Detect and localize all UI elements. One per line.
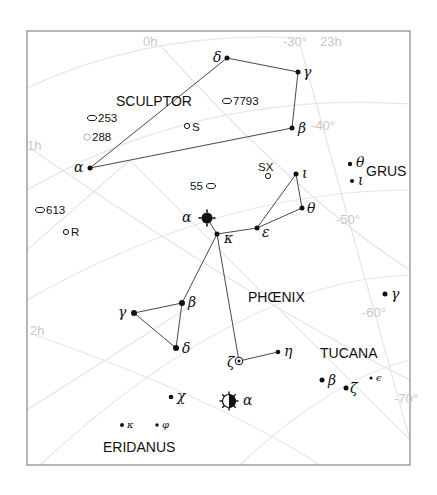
star-label: α: [243, 392, 253, 408]
star-eri-kappa: κ: [120, 419, 134, 430]
star-label: ζ: [227, 354, 236, 370]
star-label: ϵ: [376, 372, 382, 383]
constellation-line: [217, 234, 239, 361]
star-scl-alpha: α: [74, 159, 93, 175]
star-label: γ: [118, 304, 127, 320]
dec-line-70: [240, 360, 410, 465]
bright-star-icon: [199, 210, 216, 227]
star-phe-chi: χ: [169, 388, 187, 404]
star-dot-icon: [179, 300, 185, 306]
variable-star-icon: [220, 392, 239, 411]
star-dot-icon: [344, 386, 349, 391]
dec-line-40: [27, 102, 410, 190]
constellation-line: [134, 313, 176, 348]
star-phe-gamma: γ: [118, 304, 137, 320]
coord-label-dec-50: -50°: [336, 212, 360, 227]
star-label: β: [327, 372, 336, 388]
star-phe-theta: θ: [300, 200, 317, 216]
star-dot-icon: [225, 56, 230, 61]
galaxy-icon: [223, 98, 232, 103]
star-dot-icon: [155, 423, 158, 426]
star-label: α: [182, 209, 192, 225]
star-phe-epsilon: ε: [255, 224, 270, 240]
constellation-names: SCULPTORGRUSPHŒNIXTUCANAERIDANUS: [103, 93, 406, 455]
star-scl-gamma: γ: [296, 64, 313, 80]
star-label: γ: [391, 286, 400, 302]
variable-star-icon: [265, 173, 270, 178]
star-label: θ: [356, 154, 365, 170]
constellation-name-sculptor: SCULPTOR: [116, 93, 192, 109]
star-dot-icon: [255, 226, 260, 231]
star-eri-phi: φ: [155, 419, 169, 430]
galaxy-icon: [88, 115, 97, 120]
star-scl-delta: δ: [213, 49, 230, 65]
star-label: κ: [223, 230, 233, 246]
galaxy-icon: [36, 207, 45, 212]
coord-label-dec-30: -30°: [283, 34, 307, 49]
star-gru-theta: θ: [348, 154, 365, 170]
star-dot-icon: [276, 350, 281, 355]
star-label: χ: [176, 388, 187, 404]
dso-ngc-253: 253: [88, 112, 118, 124]
star-label: δ: [213, 49, 221, 65]
star-dot-icon: [88, 166, 93, 171]
constellation-name-phoenix: PHŒNIX: [248, 289, 305, 305]
star-scl-beta: β: [290, 120, 307, 136]
dso-label: 7793: [233, 95, 259, 107]
dso-label: SX: [258, 161, 274, 173]
star-label: ι: [358, 172, 364, 188]
star-dot-icon: [169, 395, 174, 400]
star-tuc-beta: β: [320, 372, 337, 388]
coord-label-ra-2h: 2h: [30, 323, 44, 338]
star-label: β: [187, 294, 196, 310]
coord-label-ra-0h: 0h: [143, 34, 157, 49]
star-label: δ: [182, 340, 190, 356]
star-label: η: [284, 343, 293, 359]
constellation-line: [134, 303, 182, 313]
star-gru-iota: ι: [350, 172, 364, 188]
dso-label: S: [192, 121, 200, 133]
star-label: α: [74, 159, 84, 175]
star-dot-icon: [131, 310, 137, 316]
coord-label-dec-40: -40°: [311, 118, 335, 133]
star-dot-icon: [320, 378, 325, 383]
dec-line-60: [40, 275, 410, 465]
variable-star-icon: [63, 229, 68, 234]
coord-label-dec-70: -70°: [394, 391, 418, 406]
constellation-name-eridanus: ERIDANUS: [103, 439, 175, 455]
star-label: θ: [307, 200, 316, 216]
dso-ngc-55: 55: [190, 180, 216, 192]
star-label: γ: [303, 64, 312, 80]
dso-scl-s: S: [184, 121, 200, 133]
constellation-line: [239, 352, 278, 361]
star-dot-icon: [350, 179, 354, 183]
dso-ngc-613: 613: [36, 204, 66, 216]
dso-ngc-288: 288: [83, 131, 111, 143]
constellation-line: [227, 58, 298, 72]
galaxy-icon: [207, 183, 216, 188]
globular-cluster-icon: [83, 133, 90, 140]
star-chart: 0h-30°23h1h-40°-50°2h-60°-70° 253288S779…: [0, 0, 437, 495]
double-star-icon: [235, 357, 243, 365]
dso-label: R: [71, 226, 79, 238]
coordinate-grid: [27, 37, 410, 465]
ra-line-diag-a: [27, 160, 410, 440]
coord-label-ra-1h: 1h: [27, 138, 41, 153]
constellation-name-grus: GRUS: [366, 163, 406, 179]
star-phe-eta: η: [276, 343, 293, 359]
star-dot-icon: [383, 292, 388, 297]
star-dot-icon: [348, 162, 352, 166]
star-dot-icon: [215, 232, 220, 237]
star-label: φ: [162, 419, 169, 430]
constellation-line: [182, 234, 217, 303]
dso-label: 253: [98, 112, 117, 124]
star-dot-icon: [120, 423, 124, 427]
star-label: ι: [302, 165, 308, 181]
star-dot-icon: [294, 172, 299, 177]
constellation-line: [217, 228, 257, 234]
star-dot-icon: [290, 126, 295, 131]
ra-line-0h: [160, 45, 410, 270]
star-label: ε: [262, 224, 270, 240]
star-tuc-zeta: ζ: [344, 380, 360, 396]
star-eri-alpha: α: [220, 392, 254, 411]
